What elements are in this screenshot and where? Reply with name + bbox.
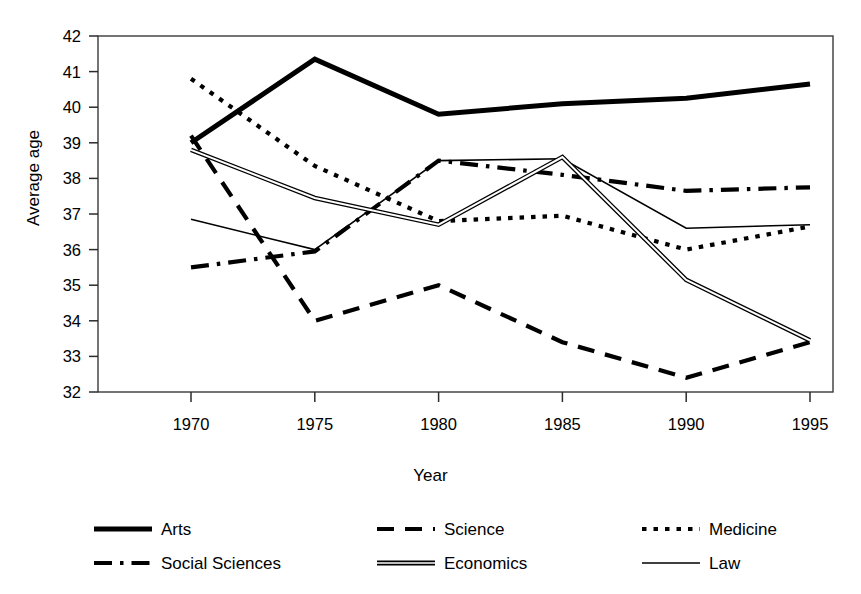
legend-label: Economics — [444, 555, 527, 572]
x-tick-label: 1980 — [420, 415, 457, 433]
legend-swatch-dotted-icon — [640, 520, 702, 538]
series-science — [191, 136, 810, 378]
legend-label: Law — [709, 555, 740, 572]
legend-item-arts[interactable]: Arts — [92, 512, 191, 546]
chart-figure: 4241403938373635343332197019751980198519… — [0, 0, 861, 594]
legend-label: Social Sciences — [161, 555, 281, 572]
x-tick-label: 1985 — [544, 415, 581, 433]
legend-item-science[interactable]: Science — [375, 512, 504, 546]
x-axis: 197019751980198519901995 — [173, 392, 829, 433]
legend-item-medicine[interactable]: Medicine — [640, 512, 777, 546]
legend-swatch-dashed-icon — [375, 520, 437, 538]
y-tick-label: 36 — [63, 241, 81, 259]
legend-label: Science — [444, 521, 504, 538]
y-tick-label: 42 — [63, 27, 81, 45]
series-law — [191, 159, 810, 250]
legend-row: ArtsScienceMedicine — [0, 512, 861, 546]
series-medicine — [191, 79, 810, 250]
series-arts — [191, 59, 810, 143]
plot-area: 4241403938373635343332197019751980198519… — [0, 0, 861, 500]
legend-item-economics[interactable]: Economics — [375, 546, 527, 580]
legend-swatch-double-thick-icon — [375, 554, 437, 572]
y-tick-label: 38 — [63, 169, 81, 187]
y-axis: 4241403938373635343332 — [63, 27, 98, 401]
y-tick-label: 39 — [63, 134, 81, 152]
y-tick-label: 34 — [63, 312, 81, 330]
chart-legend: ArtsScienceMedicineSocial SciencesEconom… — [0, 512, 861, 594]
y-tick-label: 37 — [63, 205, 81, 223]
x-tick-label: 1970 — [173, 415, 210, 433]
y-tick-label: 40 — [63, 98, 81, 116]
plot-frame — [98, 36, 833, 392]
legend-label: Medicine — [709, 521, 777, 538]
y-tick-label: 32 — [63, 383, 81, 401]
y-axis-title: Average age — [24, 78, 44, 278]
y-tick-label: 41 — [63, 63, 81, 81]
legend-row: Social SciencesEconomicsLaw — [0, 546, 861, 580]
legend-label: Arts — [161, 521, 191, 538]
series-economics — [191, 150, 810, 340]
legend-swatch-solid-thick-icon — [92, 520, 154, 538]
x-tick-label: 1990 — [668, 415, 705, 433]
line-chart: 4241403938373635343332197019751980198519… — [0, 0, 861, 500]
series-social-sciences — [191, 161, 810, 268]
x-axis-title: Year — [0, 466, 861, 486]
legend-item-social-sciences[interactable]: Social Sciences — [92, 546, 281, 580]
x-tick-label: 1975 — [296, 415, 333, 433]
legend-swatch-dash-dot-icon — [92, 554, 154, 572]
y-tick-label: 33 — [63, 347, 81, 365]
y-tick-label: 35 — [63, 276, 81, 294]
legend-swatch-solid-thin-icon — [640, 554, 702, 572]
legend-item-law[interactable]: Law — [640, 546, 740, 580]
x-tick-label: 1995 — [792, 415, 829, 433]
